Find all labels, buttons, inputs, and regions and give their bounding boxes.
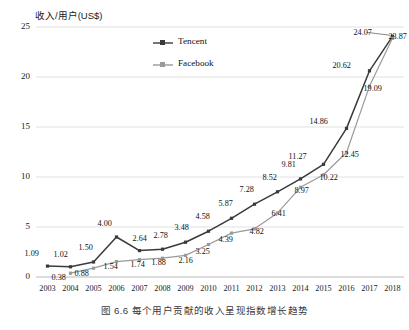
data-label-tencent-2018: 24.07 (354, 28, 372, 37)
data-label-tencent-2005: 1.50 (79, 243, 93, 252)
data-label-facebook-2004: 0.38 (52, 273, 66, 282)
data-label-tencent-2010: 4.58 (196, 212, 210, 221)
data-label-facebook-2006: 1.54 (104, 262, 118, 271)
data-label-facebook-2012: 4.82 (250, 227, 264, 236)
data-label-facebook-2015: 10.22 (320, 173, 338, 182)
y-axis-tick-20: 20 (12, 71, 30, 81)
figure-caption: 图 6.6 每个用户贡献的收入呈现指数增长趋势 (0, 303, 409, 317)
data-label-facebook-2005: 0.88 (75, 269, 89, 278)
data-label-facebook-2008: 1.88 (152, 258, 166, 267)
data-label-facebook-2011: 4.39 (219, 235, 233, 244)
data-label-tencent-2007: 2.64 (133, 234, 147, 243)
figure-container: 收入/用户(US$) 0510152025 200320042005200620… (0, 0, 409, 330)
data-label-facebook-2013: 6.41 (272, 209, 286, 218)
legend-marker-tencent-icon (152, 38, 174, 48)
x-axis-tick-2018: 2018 (380, 284, 406, 293)
data-label-tencent-2015: 11.27 (289, 152, 307, 161)
data-label-tencent-2006: 4.00 (98, 219, 112, 228)
data-label-facebook-2007: 1.74 (131, 260, 145, 269)
y-axis-tick-0: 0 (12, 271, 30, 281)
data-label-tencent-2011: 5.87 (219, 199, 233, 208)
data-label-facebook-2014: 8.97 (295, 186, 309, 195)
data-label-tencent-2017: 20.62 (333, 61, 351, 70)
data-label-tencent-2009: 3.48 (175, 223, 189, 232)
legend-label-facebook: Facebook (178, 58, 214, 68)
data-label-facebook-2010: 3.25 (196, 247, 210, 256)
y-axis-tick-10: 10 (12, 171, 30, 181)
legend-label-tencent: Tencent (178, 36, 207, 46)
data-label-tencent-2003: 1.09 (25, 249, 39, 258)
legend-marker-facebook-icon (152, 60, 174, 70)
y-axis-tick-25: 25 (12, 21, 30, 31)
data-label-tencent-2016: 14.86 (310, 117, 328, 126)
data-label-facebook-2009: 2.16 (179, 256, 193, 265)
y-axis-tick-15: 15 (12, 121, 30, 131)
chart-plot-area: 收入/用户(US$) 0510152025 200320042005200620… (0, 0, 409, 300)
data-label-tencent-2012: 7.28 (240, 185, 254, 194)
data-label-tencent-2013: 8.52 (263, 173, 277, 182)
data-label-facebook-2018: 23.87 (389, 32, 407, 41)
data-label-facebook-2017: 19.09 (364, 84, 382, 93)
y-axis-tick-5: 5 (12, 221, 30, 231)
data-label-tencent-2004: 1.02 (54, 250, 68, 259)
data-label-tencent-2008: 2.78 (154, 231, 168, 240)
data-label-facebook-2016: 12.45 (341, 150, 359, 159)
